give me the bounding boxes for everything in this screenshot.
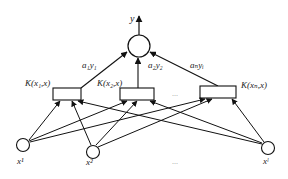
input-ellipsis: ... xyxy=(172,157,178,166)
kernel-label-2: K(x₂,x) xyxy=(96,78,122,88)
input-node-l xyxy=(262,142,275,155)
weight-label-n: aₙyᵢ xyxy=(190,60,204,70)
weight-label-1: a₁y₁ xyxy=(82,60,97,70)
kernel-label-1: K(x₁,x) xyxy=(24,78,50,88)
output-label: y xyxy=(129,13,135,24)
kernel-network-diagram: y a₁y₁ a₂y₂ aₙyᵢ K(x₁,x) K(x₂,x) K(xₙ,x)… xyxy=(0,0,288,179)
input-label-2: x² xyxy=(85,157,93,167)
input-edge xyxy=(96,101,137,145)
input-node-1 xyxy=(17,139,30,152)
input-label-1: x¹ xyxy=(16,156,24,166)
kernel-box-2 xyxy=(120,88,154,100)
kernel-box-1 xyxy=(53,88,81,100)
kernel-ellipsis: ... xyxy=(172,89,178,98)
weight-label-2: a₂y₂ xyxy=(148,60,163,70)
kernel-box-n xyxy=(200,86,236,98)
kernel-label-n: K(xₙ,x) xyxy=(240,80,267,90)
output-node xyxy=(128,35,150,57)
input-edge xyxy=(72,101,91,145)
input-edge xyxy=(232,99,264,142)
input-label-l: xˡ xyxy=(262,156,269,166)
